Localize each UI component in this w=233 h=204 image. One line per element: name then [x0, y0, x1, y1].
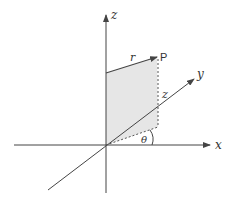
- height-label: z: [161, 88, 168, 101]
- angle-label: θ: [141, 134, 147, 145]
- cylindrical-coordinates-diagram: z x y r P z θ: [0, 0, 233, 204]
- point-label: P: [160, 51, 167, 63]
- radius-label: r: [130, 51, 136, 64]
- z-axis-label: z: [110, 8, 118, 22]
- theta-arc: [150, 130, 153, 145]
- x-axis-label: x: [215, 138, 222, 152]
- y-axis-label: y: [196, 67, 204, 81]
